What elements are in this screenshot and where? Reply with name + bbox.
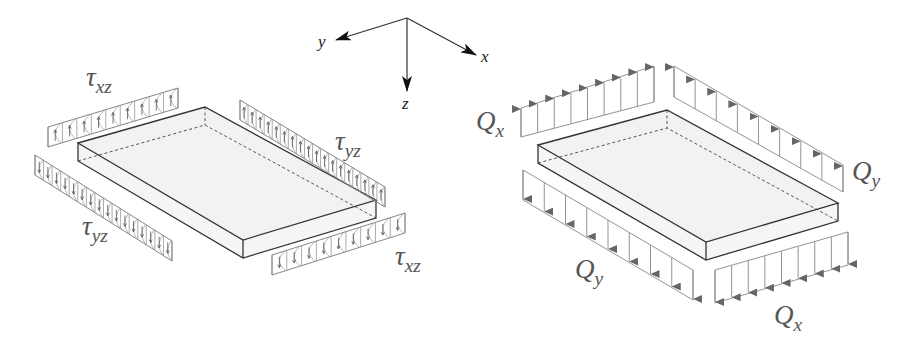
tau-symbol: τ	[335, 126, 345, 156]
right-plate	[538, 110, 838, 260]
diagram-canvas	[0, 0, 915, 345]
q-symbol: Q	[774, 300, 794, 330]
tau-yz-label-right: τyz	[335, 128, 361, 155]
q-subscript: y	[595, 268, 604, 289]
q-subscript: x	[496, 120, 505, 141]
tau-symbol: τ	[395, 241, 405, 271]
y-axis-label: y	[318, 33, 326, 50]
plate-shear-diagram: y x z τxz τyz τyz τxz Qx Qy Qy Qx	[0, 0, 915, 345]
tau-symbol: τ	[82, 211, 92, 241]
q-symbol: Q	[575, 254, 595, 284]
x-axis-arrow	[407, 18, 476, 55]
qx-label-top: Qx	[476, 108, 504, 135]
qy-label-left: Qy	[575, 256, 603, 283]
tau-yz-label-left: τyz	[82, 213, 108, 240]
tau-subscript: xz	[96, 76, 112, 97]
q-symbol: Q	[476, 106, 496, 136]
coordinate-axes	[336, 18, 476, 91]
left-plate	[78, 107, 376, 258]
q-symbol: Q	[852, 156, 872, 186]
qy-label-right: Qy	[852, 158, 880, 185]
qx-label-bottom: Qx	[774, 302, 802, 329]
tau-symbol: τ	[86, 62, 96, 92]
tau-xz-label-bottom: τxz	[395, 243, 421, 270]
tau-subscript: xz	[405, 255, 421, 276]
y-axis-arrow	[336, 18, 407, 40]
tau-xz-label-top: τxz	[86, 64, 112, 91]
q-subscript: y	[872, 170, 881, 191]
q-subscript: x	[794, 314, 803, 335]
z-axis-label: z	[402, 95, 409, 112]
tau-subscript: yz	[92, 225, 108, 246]
x-axis-label: x	[481, 48, 489, 65]
tau-subscript: yz	[345, 140, 361, 161]
